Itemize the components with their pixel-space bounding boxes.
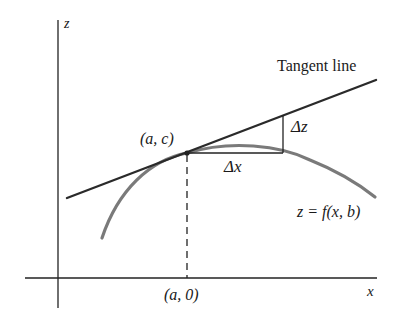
tangent-line <box>67 80 376 198</box>
foot-label: (a, 0) <box>164 287 199 303</box>
point-label: (a, c) <box>140 131 174 147</box>
x-axis-label: x <box>367 284 374 299</box>
diagram-canvas <box>0 0 403 320</box>
z-axis-label: z <box>64 17 69 31</box>
curve-label: z = f(x, b) <box>297 204 360 220</box>
tangent-line-label: Tangent line <box>277 58 356 74</box>
delta-x-label: Δx <box>224 158 242 175</box>
delta-z-label: Δz <box>291 118 308 135</box>
point-a-c <box>184 150 189 155</box>
